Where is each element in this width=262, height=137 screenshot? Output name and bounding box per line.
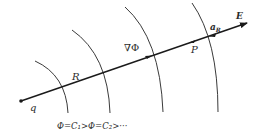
radius-label: R	[71, 71, 80, 82]
equipotential-relation: Φ=C₁>Φ=C₂>···	[57, 121, 127, 131]
unit-vector-subscript: R	[215, 26, 221, 33]
field-label: E	[235, 11, 243, 21]
gradient-label: ∇Φ	[124, 42, 139, 53]
equipotential-arc-4	[192, 3, 218, 112]
charge-label: q	[30, 102, 36, 113]
field-line	[21, 23, 247, 101]
point-label: P	[190, 44, 198, 55]
diagram-canvas: q R ∇Φ P aR E Φ=C₁>Φ=C₂>···	[0, 0, 262, 137]
equipotential-arc-3	[125, 7, 163, 112]
charge-point	[19, 99, 23, 103]
unit-vector-label: aR	[210, 22, 221, 33]
